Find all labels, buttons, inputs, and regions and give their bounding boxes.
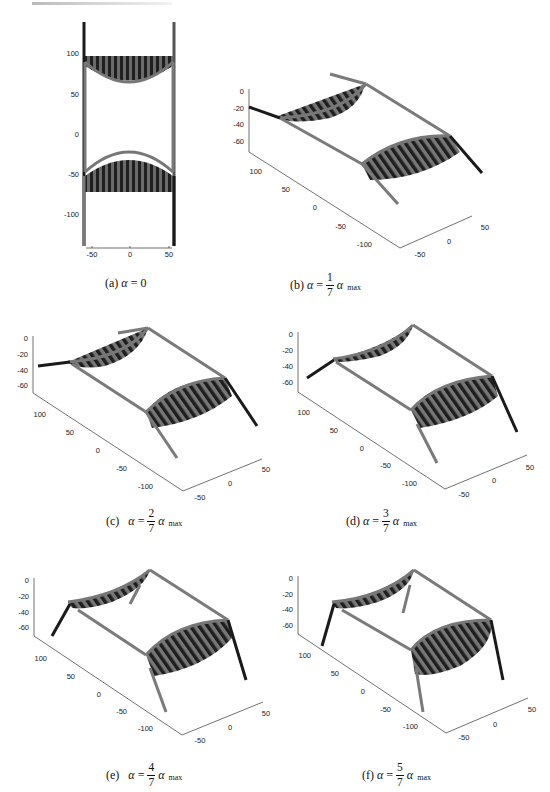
x-tick-label: 0 [228,479,232,488]
y-tick-label: 100 [34,654,47,663]
y-tick-label: 0 [97,690,101,699]
caption-subscript: max [403,519,417,528]
y-tick-label: -100 [402,479,417,488]
panel-c-plot: 0 -20 -40 -60 100 50 0 -50 -100 -50 0 50 [0,300,280,540]
y-tick-label: -100 [357,240,372,249]
panel-b-3d-view: 0 -20 -40 -60 100 50 0 -50 -100 -50 0 50… [220,40,510,300]
caption-label: (b) [290,278,304,293]
caption-alpha: α [158,514,164,529]
y-tick-label: 50 [66,428,74,437]
caption-equals: = [372,514,379,529]
panel-f-caption: (f) α = 57 α max [362,762,431,788]
caption-equals: = [138,768,145,783]
panel-b-plot: 0 -20 -40 -60 100 50 0 -50 -100 -50 0 50 [220,40,510,300]
y-tick-label: -50 [380,461,391,470]
caption-alpha: α [363,514,369,529]
x-tick-label: -50 [195,493,206,502]
y-tick-label: -50 [380,705,391,714]
y-tick-label: 100 [33,410,46,419]
x-tick-label: 50 [262,709,270,718]
y-tick-label: 50 [331,669,339,678]
y-tick-label: -50 [335,222,346,231]
x-tick-label: -50 [415,250,426,259]
z-tick-label: 0 [25,576,29,585]
z-tick-label: -60 [18,623,29,632]
z-tick-label: 0 [240,87,244,96]
z-tick-label: -40 [282,605,293,614]
x-tick-label: -50 [459,490,470,499]
caption-alpha: α [128,514,134,529]
z-tick-label: 0 [289,330,293,339]
panel-d-3d-view: 0 -20 -40 -60 100 50 0 -50 -100 -50 0 50… [270,300,550,540]
y-tick-label: 100 [66,49,79,58]
panel-c-3d-view: 0 -20 -40 -60 100 50 0 -50 -100 -50 0 50… [0,300,280,540]
x-tick-label: -50 [87,250,98,259]
z-tick-label: -40 [18,608,29,617]
caption-alpha: α [128,768,134,783]
y-tick-label: -50 [116,707,127,716]
panel-f-3d-view: 0 -20 -40 -60 100 50 0 -50 -100 -50 0 50… [270,540,550,792]
caption-alpha: α [393,514,399,529]
caption-alpha: α [307,278,313,293]
z-tick-label: -60 [282,621,293,630]
caption-fraction: 47 [147,762,155,788]
z-tick-label: -20 [18,592,29,601]
panel-e-3d-view: 0 -20 -40 -60 100 50 0 -50 -100 -50 0 50… [0,540,280,792]
y-tick-label: -100 [138,482,153,491]
y-tick-label: -100 [403,722,418,731]
caption-equals: = [131,276,138,291]
y-tick-label: 100 [298,651,311,660]
caption-subscript: max [417,773,431,782]
y-tick-label: 100 [297,408,310,417]
z-tick-label: -60 [233,137,244,146]
caption-label: (a) [105,276,118,291]
x-tick-label: 0 [493,720,497,729]
caption-equals: = [138,514,145,529]
caption-subscript: max [168,773,182,782]
caption-label: (c) [106,514,119,529]
z-tick-label: -20 [282,346,293,355]
panel-f-plot: 0 -20 -40 -60 100 50 0 -50 -100 -50 0 50 [270,540,550,792]
caption-fraction: 17 [326,272,334,298]
z-tick-label: -20 [282,590,293,599]
x-tick-label: -50 [459,733,470,742]
caption-fraction: 27 [147,508,155,534]
caption-subscript: max [347,283,361,292]
x-tick-label: 50 [481,223,489,232]
y-tick-label: 0 [361,687,365,696]
caption-alpha: α [121,276,127,291]
caption-alpha: α [377,768,383,783]
x-tick-label: 50 [528,705,536,714]
z-tick-label: -60 [282,378,293,387]
z-tick-label: -60 [17,381,28,390]
z-tick-label: -40 [282,362,293,371]
z-tick-label: -40 [17,366,28,375]
y-tick-label: 0 [360,444,364,453]
y-tick-label: 50 [330,426,338,435]
x-tick-label: 50 [165,250,173,259]
x-tick-label: 0 [128,250,132,259]
y-tick-label: -50 [68,170,79,179]
caption-alpha: α [407,768,413,783]
y-tick-label: 50 [282,185,290,194]
y-tick-label: -50 [116,464,127,473]
y-tick-label: 0 [96,446,100,455]
caption-fraction: 57 [396,762,404,788]
x-tick-label: 0 [492,476,496,485]
y-tick-label: 0 [313,203,317,212]
caption-subscript: max [168,519,182,528]
y-tick-label: 50 [67,672,75,681]
panel-e-plot: 0 -20 -40 -60 100 50 0 -50 -100 -50 0 50 [0,540,280,792]
caption-label: (d) [346,514,360,529]
panel-a-caption: (a) α = 0 [105,276,146,291]
caption-equals: = [316,278,323,293]
y-tick-label: -100 [138,724,153,733]
caption-fraction: 37 [382,508,390,534]
y-tick-label: -100 [64,210,79,219]
caption-equals: = [386,768,393,783]
caption-label: (e) [106,768,119,783]
x-tick-label: 50 [526,463,534,472]
panel-b-caption: (b) α = 17 α max [290,272,361,298]
z-tick-label: -40 [233,120,244,129]
y-tick-label: 0 [75,130,79,139]
